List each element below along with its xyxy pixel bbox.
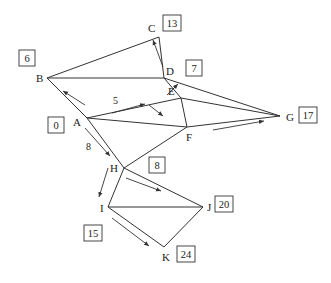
- value-box-C: 13: [163, 15, 181, 31]
- arrow-H-to-J-icon: [126, 178, 161, 191]
- node-label-C: C: [148, 22, 155, 34]
- value-box-H: 8: [149, 157, 165, 173]
- network-diagram: 06137178152024 ABCDEFGHIJK58: [0, 0, 331, 283]
- value-boxes-layer: 06137178152024: [19, 15, 317, 262]
- edge-B-A: [47, 78, 87, 118]
- edge-D-G: [164, 78, 280, 116]
- value-box-A: 0: [48, 117, 64, 133]
- value-box-B: 6: [19, 50, 35, 66]
- value-box-text: 7: [191, 63, 196, 74]
- value-box-text: 0: [53, 120, 58, 131]
- edge-I-K: [108, 207, 164, 247]
- value-box-I: 15: [84, 225, 102, 241]
- arrow-H-to-I-icon: [99, 168, 108, 197]
- labels-layer: ABCDEFGHIJK58: [36, 22, 294, 263]
- node-label-K: K: [162, 251, 170, 263]
- value-box-text: 15: [88, 228, 99, 239]
- value-box-text: 20: [219, 199, 230, 210]
- value-box-K: 24: [177, 246, 195, 262]
- edge-A-F: [87, 118, 187, 127]
- value-box-text: 13: [167, 18, 178, 29]
- node-label-B: B: [36, 72, 43, 84]
- edge-A-E: [87, 98, 181, 118]
- edges-layer: [47, 37, 280, 247]
- edge-H-J: [124, 168, 203, 207]
- arrow-F-to-G-icon: [213, 121, 264, 130]
- edge-A-H: [87, 118, 124, 168]
- arrow-E-to-F-icon: [149, 105, 163, 116]
- value-box-text: 6: [24, 53, 29, 64]
- edge-B-C: [47, 37, 159, 78]
- value-box-J: 20: [215, 196, 233, 212]
- node-label-I: I: [100, 202, 104, 214]
- node-label-H: H: [110, 162, 118, 174]
- edge-weight-label: 5: [113, 95, 118, 106]
- value-box-text: 24: [181, 249, 192, 260]
- edge-E-G: [181, 98, 280, 116]
- node-label-F: F: [186, 131, 192, 143]
- value-box-G: 17: [299, 107, 317, 123]
- value-box-text: 17: [303, 110, 314, 121]
- edge-J-K: [164, 207, 203, 247]
- edge-F-G: [187, 116, 280, 127]
- node-label-A: A: [73, 116, 81, 128]
- value-box-D: 7: [186, 60, 202, 76]
- edge-E-F: [181, 98, 187, 127]
- edge-weight-label: 8: [86, 141, 91, 152]
- node-label-E: E: [168, 85, 175, 97]
- value-box-text: 8: [154, 160, 159, 171]
- node-label-D: D: [166, 65, 174, 77]
- node-label-J: J: [207, 201, 212, 213]
- node-label-G: G: [286, 111, 294, 123]
